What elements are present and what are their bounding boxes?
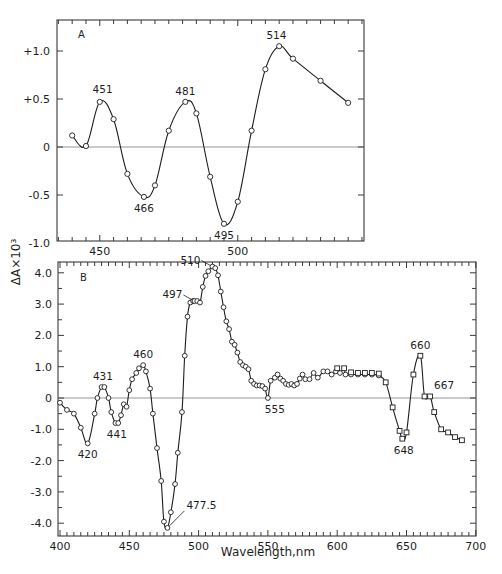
data-point-circle xyxy=(268,378,273,383)
data-point-circle xyxy=(263,67,268,72)
data-point-circle xyxy=(182,353,187,358)
data-point-circle xyxy=(325,369,330,374)
data-point-circle xyxy=(232,342,237,347)
data-point-square xyxy=(349,370,354,375)
data-point-circle xyxy=(295,382,300,387)
data-point-circle xyxy=(221,305,226,310)
data-point-square xyxy=(418,353,423,358)
peak-annotation: 514 xyxy=(266,29,286,41)
peak-annotation: 648 xyxy=(394,444,414,456)
panel-b: 4004505005506006507004.03.02.01.00-1.0-2… xyxy=(31,254,487,553)
data-point-circle xyxy=(175,450,180,455)
y-tick-label: +0.5 xyxy=(23,93,50,106)
data-point-square xyxy=(422,394,427,399)
data-point-circle xyxy=(70,133,75,138)
data-point-circle xyxy=(109,410,114,415)
panel-label: A xyxy=(78,29,85,40)
data-point-square xyxy=(342,366,347,371)
x-tick-label: 400 xyxy=(50,540,71,553)
data-point-circle xyxy=(173,482,178,487)
data-point-circle xyxy=(235,199,240,204)
data-point-square xyxy=(432,410,437,415)
x-tick-label: 450 xyxy=(119,540,140,553)
data-point-square xyxy=(404,430,409,435)
data-point-circle xyxy=(97,99,102,104)
data-point-circle xyxy=(58,400,63,405)
data-point-square xyxy=(376,371,381,376)
data-point-circle xyxy=(266,396,271,401)
data-point-square xyxy=(411,372,416,377)
x-tick-label: 700 xyxy=(465,540,486,553)
data-point-circle xyxy=(329,372,334,377)
data-point-circle xyxy=(227,327,232,332)
data-point-circle xyxy=(162,519,167,524)
data-point-circle xyxy=(208,174,213,179)
y-tick-label: 4.0 xyxy=(35,267,53,280)
data-point-circle xyxy=(300,372,305,377)
data-point-circle xyxy=(148,386,153,391)
data-point-circle xyxy=(92,411,97,416)
data-point-circle xyxy=(180,410,185,415)
data-point-circle xyxy=(102,385,107,390)
peak-annotation: 477.5 xyxy=(186,499,216,511)
data-point-square xyxy=(446,430,451,435)
data-point-circle xyxy=(141,194,146,199)
data-point-circle xyxy=(78,425,83,430)
data-point-circle xyxy=(116,421,121,426)
y-tick-label: 2.0 xyxy=(35,329,53,342)
data-point-circle xyxy=(290,56,295,61)
data-point-circle xyxy=(127,388,132,393)
data-point-circle xyxy=(318,78,323,83)
data-point-circle xyxy=(183,99,188,104)
panel-a: 450500+1.0+0.50-0.5-1.0A451466481495514 xyxy=(23,20,364,258)
data-point-square xyxy=(460,438,465,443)
data-point-circle xyxy=(338,371,343,376)
peak-annotation: 420 xyxy=(78,448,98,460)
data-point-circle xyxy=(106,396,111,401)
data-point-circle xyxy=(194,111,199,116)
y-tick-label: 0 xyxy=(45,392,52,405)
data-point-circle xyxy=(137,366,142,371)
x-axis-title: Wavelength,nm xyxy=(221,545,315,559)
data-point-circle xyxy=(134,371,139,376)
y-tick-label: -2.0 xyxy=(31,455,52,468)
data-point-circle xyxy=(152,183,157,188)
peak-annotation: 667 xyxy=(434,379,454,391)
y-tick-label: 1.0 xyxy=(35,361,53,374)
data-point-circle xyxy=(168,510,173,515)
y-tick-label: -1.0 xyxy=(29,237,50,250)
data-point-circle xyxy=(307,377,312,382)
data-point-circle xyxy=(130,377,135,382)
y-tick-label: -1.0 xyxy=(31,423,52,436)
data-point-circle xyxy=(263,386,268,391)
data-point-circle xyxy=(124,404,129,409)
data-point-circle xyxy=(346,100,351,105)
data-point-square xyxy=(369,371,374,376)
data-point-square xyxy=(335,366,340,371)
data-point-circle xyxy=(150,411,155,416)
y-tick-label: -4.0 xyxy=(31,517,52,530)
data-point-circle xyxy=(119,413,124,418)
data-point-circle xyxy=(155,446,160,451)
peak-annotation: 510 xyxy=(180,254,200,266)
data-point-circle xyxy=(277,44,282,49)
data-point-circle xyxy=(185,314,190,319)
data-point-circle xyxy=(343,372,348,377)
y-tick-label: 3.0 xyxy=(35,298,53,311)
peak-annotation: 451 xyxy=(93,83,113,95)
data-point-circle xyxy=(165,525,170,530)
data-point-circle xyxy=(213,266,218,271)
data-point-circle xyxy=(200,284,205,289)
y-tick-label: 0 xyxy=(43,141,50,154)
data-point-square xyxy=(439,427,444,432)
data-point-circle xyxy=(311,371,316,376)
data-point-circle xyxy=(141,363,146,368)
data-point-circle xyxy=(235,350,240,355)
data-point-circle xyxy=(216,273,221,278)
data-point-circle xyxy=(65,407,70,412)
data-point-circle xyxy=(159,479,164,484)
y-axis-title: ΔA×10³ xyxy=(9,239,23,286)
peak-annotation: 555 xyxy=(265,403,285,415)
data-point-circle xyxy=(166,128,171,133)
peak-annotation: 481 xyxy=(175,85,195,97)
